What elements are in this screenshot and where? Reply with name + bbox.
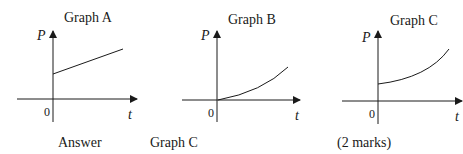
graph-c-y-label: P xyxy=(362,31,371,45)
graph-c-x-label: t xyxy=(455,110,459,124)
graph-c-title: Graph C xyxy=(390,14,438,28)
answer-label: Answer xyxy=(58,136,102,150)
graph-c-curve xyxy=(378,49,449,84)
graph-a-title: Graph A xyxy=(64,11,112,25)
marks-label: (2 marks) xyxy=(337,136,391,150)
graph-a-x-label: t xyxy=(128,108,132,122)
graph-c xyxy=(342,31,462,124)
graph-a-y-label: P xyxy=(37,29,46,43)
graph-b-curve xyxy=(218,67,288,100)
graph-b xyxy=(182,31,300,122)
graph-c-origin-label: 0 xyxy=(369,107,375,121)
graph-b-x-label: t xyxy=(295,109,299,123)
graph-b-title: Graph B xyxy=(228,13,276,27)
graph-a-line xyxy=(53,49,123,74)
graph-a xyxy=(17,31,137,122)
graph-b-y-label: P xyxy=(201,29,210,43)
answer-value: Graph C xyxy=(150,136,198,150)
graph-b-origin-label: 0 xyxy=(208,106,214,120)
graph-a-origin-label: 0 xyxy=(44,105,50,119)
